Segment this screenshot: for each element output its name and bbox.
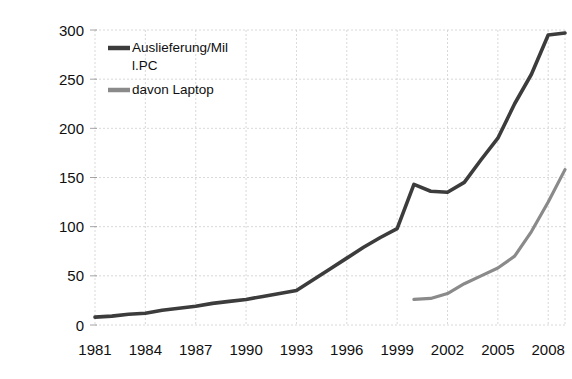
x-axis-tick-label: 1981 (78, 341, 111, 358)
plot-background (0, 0, 572, 379)
x-axis-tick-label: 2008 (532, 341, 565, 358)
x-axis-tick-label: 1996 (330, 341, 363, 358)
y-axis-tick-label: 250 (59, 71, 84, 88)
legend-label: davon Laptop (132, 82, 214, 97)
y-axis-tick-label: 50 (67, 267, 84, 284)
x-axis-tick-label: 2005 (481, 341, 514, 358)
y-axis-tick-label: 300 (59, 22, 84, 39)
y-axis-tick-label: 200 (59, 120, 84, 137)
legend-label: Auslieferung/Mil (132, 40, 228, 55)
legend-label-continued: l.PC (132, 58, 158, 73)
x-axis-tick-label: 1999 (380, 341, 413, 358)
y-axis-tick-label: 100 (59, 218, 84, 235)
x-axis-tick-label: 1984 (129, 341, 162, 358)
x-axis-tick-label: 2002 (431, 341, 464, 358)
chart-container: 050100150200250300 198119841987199019931… (0, 0, 572, 379)
line-chart: 050100150200250300 198119841987199019931… (0, 0, 572, 379)
x-axis-tick-label: 1990 (229, 341, 262, 358)
y-axis-tick-label: 150 (59, 169, 84, 186)
x-axis-tick-label: 1993 (280, 341, 313, 358)
x-axis-tick-label: 1987 (179, 341, 212, 358)
y-axis-tick-label: 0 (76, 317, 84, 334)
